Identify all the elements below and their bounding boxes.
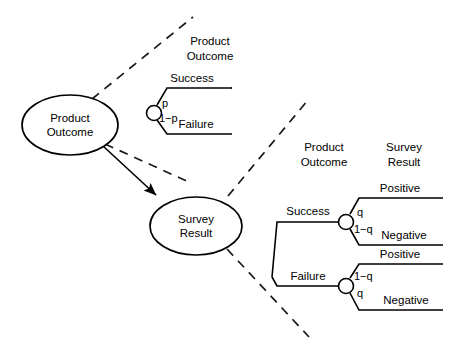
top-decision-tree: Product Outcome Success p Failure 1−p <box>147 35 234 134</box>
bottom-root-branch-success-path[interactable] <box>272 222 339 277</box>
top-branch-success-outcome: Success <box>170 72 214 84</box>
bottom-tree-header-product-line1: Product <box>304 141 344 153</box>
bottom-decision-tree: Product Outcome Survey Result Success Fa… <box>272 141 443 310</box>
success-positive-path[interactable] <box>350 198 443 214</box>
bottom-tree-header-product-line2: Outcome <box>301 156 348 168</box>
top-tree-header-product-line2: Outcome <box>187 50 234 62</box>
product-outcome-label-line1: Product <box>50 112 90 124</box>
product-outcome-ellipse[interactable] <box>22 95 118 155</box>
top-tree-header-product-line1: Product <box>190 35 230 47</box>
failure-negative-probability: q <box>357 287 363 299</box>
failure-positive-outcome: Positive <box>380 248 420 260</box>
product-outcome-label-line2: Outcome <box>47 126 94 138</box>
bottom-root-branch-failure-label: Failure <box>290 270 325 282</box>
survey-result-ellipse[interactable] <box>150 197 242 255</box>
influence-node-product-outcome[interactable]: Product Outcome <box>22 95 118 155</box>
top-branch-failure-outcome: Failure <box>178 118 213 130</box>
influence-arrow-product-to-survey <box>103 146 156 195</box>
success-positive-outcome: Positive <box>380 182 420 194</box>
bottom-root-branch-success-label: Success <box>286 205 330 217</box>
success-negative-probability: 1−q <box>354 223 373 235</box>
success-positive-probability: q <box>357 206 363 218</box>
failure-positive-probability: 1−q <box>354 270 373 282</box>
top-chance-node-circle[interactable] <box>147 106 162 121</box>
diagram-canvas: Product Outcome Survey Result Product Ou… <box>0 0 451 358</box>
success-negative-outcome: Negative <box>381 229 426 241</box>
success-chance-node-circle[interactable] <box>339 215 354 230</box>
survey-result-label-line2: Result <box>180 227 213 239</box>
expansion-link-product-tree-lower <box>105 144 191 183</box>
failure-negative-outcome: Negative <box>383 294 428 306</box>
failure-chance-node-circle[interactable] <box>339 279 354 294</box>
top-branch-success-probability: p <box>162 97 168 109</box>
bottom-tree-header-survey-line2: Result <box>388 156 421 168</box>
expansion-link-survey-tree-lower <box>227 249 309 337</box>
diagram-svg: Product Outcome Survey Result Product Ou… <box>0 0 451 358</box>
expansion-link-survey-tree-upper <box>228 100 308 196</box>
influence-node-survey-result[interactable]: Survey Result <box>150 197 242 255</box>
bottom-tree-header-survey-line1: Survey <box>386 141 422 153</box>
survey-result-label-line1: Survey <box>178 213 214 225</box>
expansion-link-product-tree-upper <box>92 17 193 99</box>
top-branch-success-path[interactable] <box>157 88 232 105</box>
